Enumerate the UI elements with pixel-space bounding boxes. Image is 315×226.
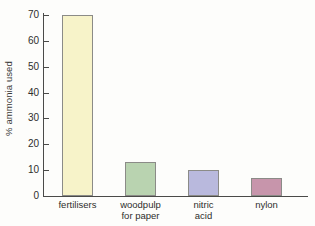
y-axis-tick-label: 40: [17, 88, 39, 98]
x-axis-label: nitric acid: [174, 199, 233, 221]
bar: [188, 170, 219, 196]
bar: [125, 162, 156, 196]
y-axis-tick-label: 0: [17, 191, 39, 201]
y-axis-tick: [44, 41, 49, 42]
y-axis-tick: [44, 170, 49, 171]
y-axis-tick: [44, 67, 49, 68]
bar-chart-figure: % ammonia used 010203040506070 fertilise…: [0, 0, 315, 226]
y-axis-tick-label: 70: [17, 10, 39, 20]
y-axis-tick-label: 30: [17, 113, 39, 123]
x-axis-label: nylon: [237, 199, 296, 210]
bar: [62, 15, 93, 196]
y-axis-title: % ammonia used: [0, 0, 16, 196]
y-axis-tick: [44, 118, 49, 119]
y-axis-tick-label: 20: [17, 139, 39, 149]
y-axis-tick: [44, 15, 49, 16]
y-axis-title-text: % ammonia used: [3, 61, 14, 136]
bar: [251, 178, 282, 196]
y-axis-tick: [44, 93, 49, 94]
y-axis-tick-label: 10: [17, 165, 39, 175]
y-axis-tick: [44, 144, 49, 145]
x-axis-line: [43, 196, 308, 197]
x-axis-label: fertilisers: [48, 199, 107, 210]
y-axis-tick-label: 60: [17, 36, 39, 46]
x-axis-label: woodpulp for paper: [111, 199, 170, 221]
y-axis-tick-label: 50: [17, 62, 39, 72]
